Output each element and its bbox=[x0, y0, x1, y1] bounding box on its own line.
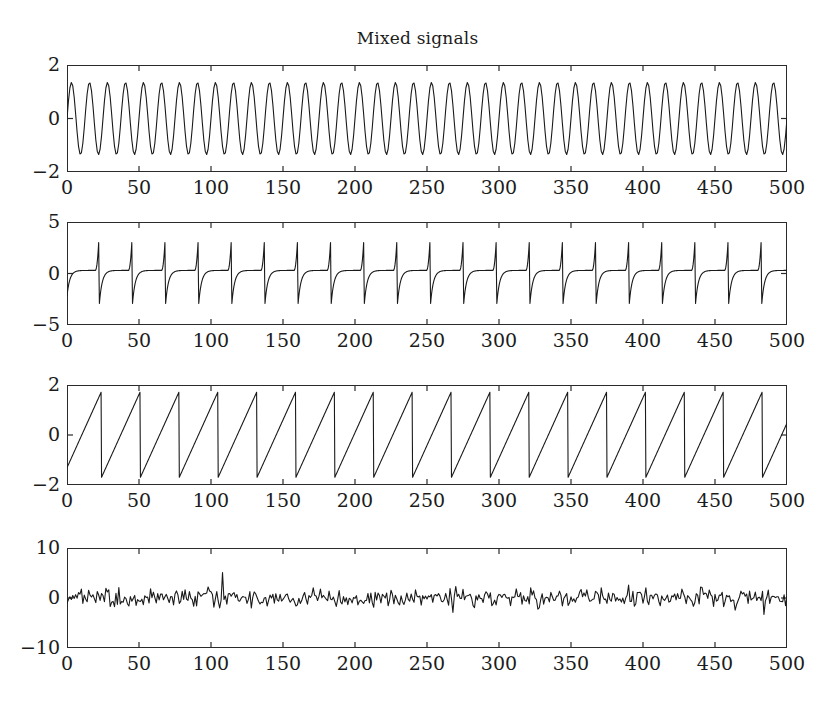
y-tick-label: 0 bbox=[48, 109, 60, 128]
x-tick-label: 200 bbox=[337, 178, 373, 197]
y-tick-label: 10 bbox=[36, 538, 60, 557]
x-tick-label: 250 bbox=[409, 491, 445, 510]
x-tick-label: 100 bbox=[193, 331, 229, 350]
figure-canvas: Mixed signals −202 050100150200250300350… bbox=[0, 0, 835, 715]
y-tick-label: −10 bbox=[20, 638, 60, 657]
y-tick-label: −5 bbox=[32, 315, 60, 334]
x-tick-label: 400 bbox=[625, 654, 661, 673]
x-tick-label: 0 bbox=[61, 331, 73, 350]
x-tick-label: 350 bbox=[553, 491, 589, 510]
x-tick-label: 500 bbox=[769, 491, 805, 510]
subplot-spike: −505 050100150200250300350400450500 bbox=[67, 222, 787, 325]
x-tick-label: 150 bbox=[265, 331, 301, 350]
x-tick-label: 500 bbox=[769, 178, 805, 197]
x-tick-label: 250 bbox=[409, 178, 445, 197]
x-tick-label: 50 bbox=[127, 331, 151, 350]
x-tick-label: 0 bbox=[61, 654, 73, 673]
x-tick-label: 50 bbox=[127, 654, 151, 673]
x-tick-label: 300 bbox=[481, 654, 517, 673]
page-title: Mixed signals bbox=[0, 28, 835, 48]
x-tick-label: 100 bbox=[193, 178, 229, 197]
y-tick-label: 2 bbox=[48, 375, 60, 394]
x-tick-label: 200 bbox=[337, 491, 373, 510]
x-tick-label: 0 bbox=[61, 178, 73, 197]
x-tick-label: 50 bbox=[127, 491, 151, 510]
plot-line-sine bbox=[67, 65, 787, 172]
y-tick-label: 0 bbox=[48, 425, 60, 444]
x-tick-label: 350 bbox=[553, 654, 589, 673]
x-tick-label: 50 bbox=[127, 178, 151, 197]
x-tick-label: 500 bbox=[769, 331, 805, 350]
x-tick-label: 350 bbox=[553, 178, 589, 197]
x-tick-label: 400 bbox=[625, 331, 661, 350]
x-tick-label: 400 bbox=[625, 178, 661, 197]
x-tick-label: 400 bbox=[625, 491, 661, 510]
x-tick-label: 350 bbox=[553, 331, 589, 350]
x-tick-label: 300 bbox=[481, 331, 517, 350]
x-tick-label: 450 bbox=[697, 654, 733, 673]
subplot-noise: −10010 050100150200250300350400450500 bbox=[67, 548, 787, 648]
x-tick-label: 150 bbox=[265, 178, 301, 197]
x-tick-label: 200 bbox=[337, 331, 373, 350]
plot-line-spike bbox=[67, 222, 787, 325]
x-tick-label: 100 bbox=[193, 654, 229, 673]
y-tick-label: 5 bbox=[48, 212, 60, 231]
y-tick-label: 2 bbox=[48, 55, 60, 74]
y-tick-label: −2 bbox=[32, 162, 60, 181]
y-tick-label: 0 bbox=[48, 588, 60, 607]
x-tick-label: 100 bbox=[193, 491, 229, 510]
x-tick-label: 450 bbox=[697, 491, 733, 510]
y-tick-label: −2 bbox=[32, 475, 60, 494]
x-tick-label: 250 bbox=[409, 331, 445, 350]
x-tick-label: 250 bbox=[409, 654, 445, 673]
subplot-sawtooth: −202 050100150200250300350400450500 bbox=[67, 385, 787, 485]
x-tick-label: 500 bbox=[769, 654, 805, 673]
y-tick-label: 0 bbox=[48, 264, 60, 283]
x-tick-label: 450 bbox=[697, 331, 733, 350]
plot-line-noise bbox=[67, 548, 787, 648]
plot-line-sawtooth bbox=[67, 385, 787, 485]
x-tick-label: 0 bbox=[61, 491, 73, 510]
subplot-sine: −202 050100150200250300350400450500 bbox=[67, 65, 787, 172]
x-tick-label: 300 bbox=[481, 178, 517, 197]
x-tick-label: 150 bbox=[265, 654, 301, 673]
x-tick-label: 450 bbox=[697, 178, 733, 197]
x-tick-label: 200 bbox=[337, 654, 373, 673]
x-tick-label: 300 bbox=[481, 491, 517, 510]
x-tick-label: 150 bbox=[265, 491, 301, 510]
